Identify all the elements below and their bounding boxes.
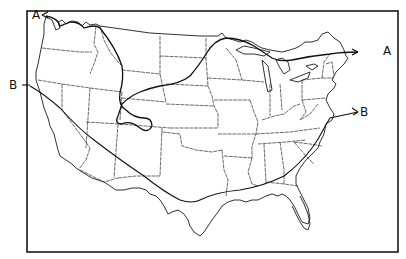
lake-erie: [290, 72, 310, 82]
map-svg: A A B B: [0, 0, 406, 259]
label-b-start: B: [9, 78, 17, 92]
florida-coast: [292, 196, 310, 230]
label-a-start: A: [32, 8, 41, 22]
line-a: [46, 16, 358, 131]
us-map-figure: A A B B: [0, 0, 406, 259]
lake-superior: [236, 46, 270, 56]
lake-ontario: [306, 64, 318, 70]
line-a-start-arrow: [42, 12, 48, 18]
label-a-end: A: [383, 44, 392, 58]
label-b-end: B: [360, 105, 368, 119]
state-borders: [38, 26, 334, 196]
line-b-end-arrow: [352, 108, 358, 115]
us-coastline: [36, 17, 348, 236]
lake-michigan: [262, 60, 272, 92]
